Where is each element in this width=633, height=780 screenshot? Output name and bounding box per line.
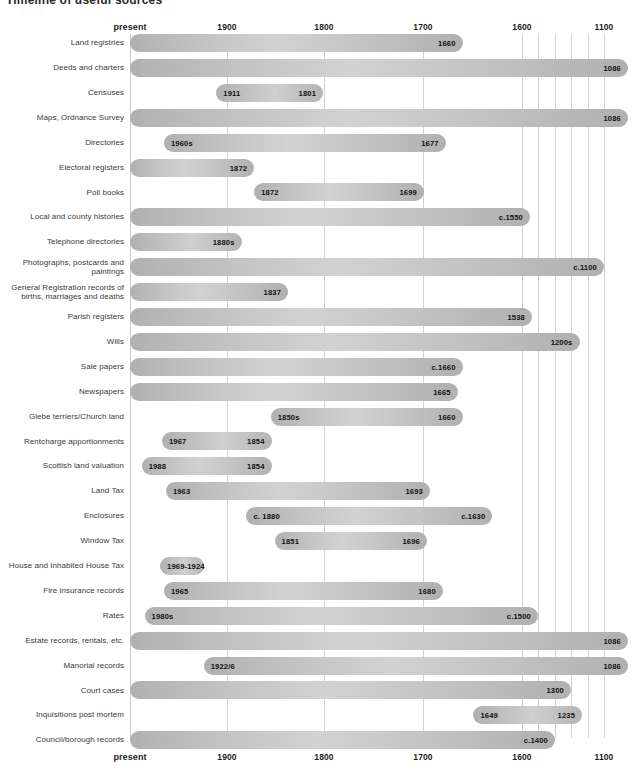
timeline-bar[interactable]: 1665 bbox=[130, 383, 458, 401]
timeline-bar[interactable]: 1922/61086 bbox=[204, 657, 628, 675]
bar-end-label: 1086 bbox=[604, 113, 622, 122]
bar-start-label: 1969-1924 bbox=[167, 561, 205, 570]
row-label-poll-books: Poll books bbox=[0, 188, 124, 198]
timeline-row: Estate records, rentals, etc.1086 bbox=[0, 632, 633, 650]
bar-start-label: 1850s bbox=[278, 412, 300, 421]
timeline-row: House and Inhabited House Tax1969-1924 bbox=[0, 557, 633, 575]
timeline-row: Glebe terriers/Church land1850s1660 bbox=[0, 408, 633, 426]
timeline-bar[interactable]: 19651680 bbox=[164, 582, 443, 600]
timeline-row: Court cases1300 bbox=[0, 681, 633, 699]
timeline-row: Manorial records1922/61086 bbox=[0, 657, 633, 675]
row-label-glebe-terriers-church-land: Glebe terriers/Church land bbox=[0, 412, 124, 422]
bar-end-label: 1854 bbox=[247, 462, 265, 471]
timeline-bar[interactable]: 18721699 bbox=[254, 183, 424, 201]
bar-end-label: 1660 bbox=[438, 412, 456, 421]
bar-end-label: c.1100 bbox=[573, 263, 597, 272]
bar-start-label: 1980s bbox=[152, 611, 174, 620]
row-label-scottish-land-valuation: Scottish land valuation bbox=[0, 461, 124, 471]
row-label-sale-papers: Sale papers bbox=[0, 362, 124, 372]
row-label-inquisitions-post-mortem: Inquisitions post mortem bbox=[0, 710, 124, 720]
timeline-bar[interactable]: 19111801 bbox=[216, 84, 323, 102]
timeline-row: Sale papersc.1660 bbox=[0, 358, 633, 376]
timeline-row: Fire insurance records19651680 bbox=[0, 582, 633, 600]
timeline-row: Deeds and charters1086 bbox=[0, 59, 633, 77]
bar-start-label: 1960s bbox=[171, 138, 193, 147]
bar-end-label: 1801 bbox=[299, 88, 317, 97]
bar-end-label: 1086 bbox=[604, 63, 622, 72]
timeline-row: Electoral registers1872 bbox=[0, 159, 633, 177]
timeline-bar[interactable]: 1660 bbox=[130, 34, 463, 52]
timeline-bar[interactable]: c.1100 bbox=[130, 258, 604, 276]
timeline-row: Wills1200s bbox=[0, 333, 633, 351]
timeline-bar[interactable]: c.1550 bbox=[130, 208, 530, 226]
bar-end-label: 1086 bbox=[604, 636, 622, 645]
timeline-row: Maps, Ordnance Survey1086 bbox=[0, 109, 633, 127]
bar-start-label: 1872 bbox=[261, 188, 279, 197]
bar-end-label: c.1660 bbox=[431, 362, 455, 371]
timeline-bar[interactable]: 1969-1924 bbox=[160, 557, 204, 575]
axis-tick-bottom-1800: 1800 bbox=[314, 752, 333, 762]
timeline-bar[interactable]: 1086 bbox=[130, 59, 628, 77]
bar-end-label: 1680 bbox=[418, 586, 436, 595]
bar-end-label: 1235 bbox=[558, 711, 576, 720]
timeline-bar[interactable]: 19631693 bbox=[166, 482, 430, 500]
row-label-censuses: Censuses bbox=[0, 88, 124, 98]
timeline-bar[interactable]: c.1400 bbox=[130, 731, 555, 749]
bar-end-label: 1200s bbox=[551, 337, 573, 346]
bar-start-label: 1988 bbox=[149, 462, 167, 471]
bar-end-label: 1660 bbox=[438, 39, 456, 48]
timeline-row: Inquisitions post mortem16491235 bbox=[0, 706, 633, 724]
timeline-bar[interactable]: 1300 bbox=[130, 681, 571, 699]
bar-end-label: 1677 bbox=[421, 138, 439, 147]
timeline-row: Newspapers1665 bbox=[0, 383, 633, 401]
timeline-bar[interactable]: 1086 bbox=[130, 109, 628, 127]
row-label-deeds-and-charters: Deeds and charters bbox=[0, 63, 124, 73]
bar-end-label: 1086 bbox=[603, 661, 621, 670]
timeline-bar[interactable]: 1980sc.1500 bbox=[145, 607, 538, 625]
bar-start-label: 1922/6 bbox=[211, 661, 235, 670]
row-label-rates: Rates bbox=[0, 611, 124, 621]
timeline-row: Directories1960s1677 bbox=[0, 134, 633, 152]
timeline-bar[interactable]: 1850s1660 bbox=[271, 408, 463, 426]
bar-end-label: 1880s bbox=[213, 238, 235, 247]
axis-tick-top-present: present bbox=[113, 22, 146, 32]
axis-tick-top-1600: 1600 bbox=[512, 22, 531, 32]
timeline-bar[interactable]: 1837 bbox=[130, 283, 288, 301]
timeline-bar[interactable]: 1872 bbox=[130, 159, 254, 177]
row-label-telephone-directories: Telephone directories bbox=[0, 237, 124, 247]
timeline-bar[interactable]: 1880s bbox=[130, 233, 242, 251]
row-label-parish-registers: Parish registers bbox=[0, 312, 124, 322]
bar-end-label: c.1400 bbox=[524, 736, 548, 745]
timeline-bar[interactable]: 1200s bbox=[130, 333, 580, 351]
timeline-bar[interactable]: 19671854 bbox=[162, 432, 272, 450]
bar-end-label: 1538 bbox=[507, 312, 525, 321]
row-label-maps-ordnance-survey: Maps, Ordnance Survey bbox=[0, 113, 124, 123]
timeline-bar[interactable]: 1086 bbox=[130, 632, 628, 650]
timeline-row: Land registries1660 bbox=[0, 34, 633, 52]
bar-end-label: c.1500 bbox=[507, 611, 531, 620]
timeline-bar[interactable]: 1538 bbox=[130, 308, 532, 326]
axis-tick-bottom-present: present bbox=[113, 752, 146, 762]
bar-end-label: c.1630 bbox=[461, 512, 485, 521]
bar-start-label: 1911 bbox=[223, 88, 240, 97]
timeline-row: Censuses19111801 bbox=[0, 84, 633, 102]
timeline-bar[interactable]: c. 1880c.1630 bbox=[246, 507, 492, 525]
bar-end-label: 1699 bbox=[399, 188, 417, 197]
axis-tick-bottom-1100: 1100 bbox=[595, 752, 614, 762]
row-label-directories: Directories bbox=[0, 138, 124, 148]
timeline-bar[interactable]: c.1660 bbox=[130, 358, 463, 376]
timeline-chart-page: Timeline of useful sources present190018… bbox=[0, 0, 633, 780]
timeline-row: Enclosuresc. 1880c.1630 bbox=[0, 507, 633, 525]
timeline-bar[interactable]: 19881854 bbox=[142, 457, 272, 475]
timeline-bar[interactable]: 16491235 bbox=[473, 706, 582, 724]
timeline-bar[interactable]: 1960s1677 bbox=[164, 134, 446, 152]
axis-tick-top-1100: 1100 bbox=[595, 22, 614, 32]
row-label-land-tax: Land Tax bbox=[0, 486, 124, 496]
bar-start-label: 1963 bbox=[173, 487, 191, 496]
axis-tick-bottom-1600: 1600 bbox=[512, 752, 531, 762]
bar-end-label: 1665 bbox=[433, 387, 451, 396]
row-label-wills: Wills bbox=[0, 337, 124, 347]
timeline-bar[interactable]: 18511696 bbox=[275, 532, 427, 550]
bar-start-label: 1965 bbox=[171, 586, 189, 595]
axis-tick-top-1800: 1800 bbox=[314, 22, 333, 32]
